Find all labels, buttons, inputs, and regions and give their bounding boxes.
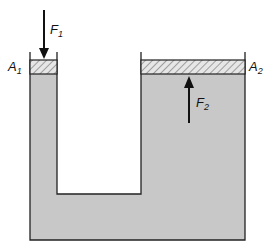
arrow-down-icon: [39, 10, 49, 59]
label-a1: A1: [7, 59, 22, 76]
hydraulic-press-diagram: F1 F2 A1 A2: [0, 0, 279, 251]
label-a2: A2: [248, 59, 263, 76]
piston-a2: [141, 60, 245, 74]
label-f1: F1: [50, 22, 63, 39]
piston-a1: [30, 60, 57, 74]
fluid-body: [30, 74, 245, 240]
